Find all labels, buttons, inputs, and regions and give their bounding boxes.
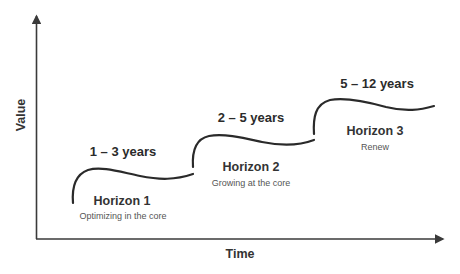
y-axis-label: Value bbox=[14, 99, 28, 132]
horizon-1-timeframe: 1 – 3 years bbox=[90, 144, 157, 159]
horizon-1-title: Horizon 1 bbox=[94, 194, 151, 208]
horizon-3-title: Horizon 3 bbox=[347, 124, 404, 138]
horizon-3-description: Renew bbox=[361, 142, 389, 152]
horizon-2-timeframe: 2 – 5 years bbox=[218, 110, 285, 125]
horizon-3-timeframe: 5 – 12 years bbox=[340, 76, 414, 91]
horizon-2-description: Growing at the core bbox=[212, 178, 291, 188]
horizon-2-title: Horizon 2 bbox=[223, 160, 280, 174]
horizon-1-description: Optimizing in the core bbox=[79, 211, 166, 221]
x-axis-label: Time bbox=[226, 247, 255, 261]
